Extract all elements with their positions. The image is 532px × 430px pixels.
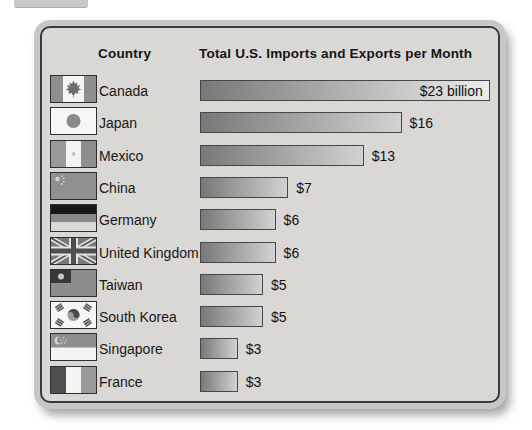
bar-singapore — [200, 338, 238, 359]
country-label: Canada — [99, 84, 148, 99]
figure-canvas: Country Total U.S. Imports and Exports p… — [0, 0, 532, 430]
country-label: Taiwan — [99, 278, 143, 293]
taiwan-flag-icon — [50, 269, 97, 297]
bar-south-korea — [200, 306, 263, 327]
bar-mexico — [200, 145, 364, 166]
value-label: $7 — [296, 180, 312, 196]
chart-panel: Country Total U.S. Imports and Exports p… — [40, 26, 500, 403]
china-flag-icon — [50, 172, 97, 200]
country-label: United Kingdom — [99, 246, 199, 261]
value-label: $3 — [246, 341, 262, 357]
table-row: Germany $6 — [42, 204, 498, 230]
japan-flag-icon — [50, 107, 97, 135]
chart-title: Total U.S. Imports and Exports per Month — [199, 46, 472, 61]
value-label: $23 billion — [420, 83, 483, 99]
table-row: Canada $23 billion — [42, 75, 498, 101]
country-label: Singapore — [99, 342, 163, 357]
cropped-tab-fragment — [14, 0, 88, 8]
table-row: Singapore $3 — [42, 333, 498, 359]
country-label: Mexico — [99, 149, 143, 164]
value-label: $5 — [271, 309, 287, 325]
table-row: Taiwan $5 — [42, 269, 498, 295]
south-korea-flag-icon — [50, 301, 97, 329]
table-row: France $3 — [42, 366, 498, 392]
country-column-header: Country — [98, 46, 151, 61]
united-kingdom-flag-icon — [50, 237, 97, 265]
bar-united-kingdom — [200, 242, 276, 263]
canada-flag-icon — [50, 75, 97, 103]
table-row: Japan $16 — [42, 107, 498, 133]
value-label: $5 — [271, 277, 287, 293]
germany-flag-icon — [50, 204, 97, 232]
bar-china — [200, 177, 288, 198]
country-label: Japan — [99, 116, 137, 131]
country-label: France — [99, 375, 143, 390]
bar-taiwan — [200, 274, 263, 295]
singapore-flag-icon — [50, 333, 97, 361]
table-row: South Korea $5 — [42, 301, 498, 327]
country-label: Germany — [99, 213, 157, 228]
bar-canada: $23 billion — [200, 80, 490, 101]
country-label: China — [99, 181, 136, 196]
france-flag-icon — [50, 366, 97, 394]
table-row: United Kingdom $6 — [42, 237, 498, 263]
table-row: China $7 — [42, 172, 498, 198]
mexico-flag-icon — [50, 140, 97, 168]
table-row: Mexico $13 — [42, 140, 498, 166]
value-label: $3 — [246, 374, 262, 390]
bar-france — [200, 371, 238, 392]
value-label: $6 — [284, 212, 300, 228]
country-label: South Korea — [99, 310, 177, 325]
value-label: $6 — [284, 245, 300, 261]
bar-japan — [200, 112, 402, 133]
bar-germany — [200, 209, 276, 230]
value-label: $13 — [372, 148, 395, 164]
value-label: $16 — [410, 115, 433, 131]
